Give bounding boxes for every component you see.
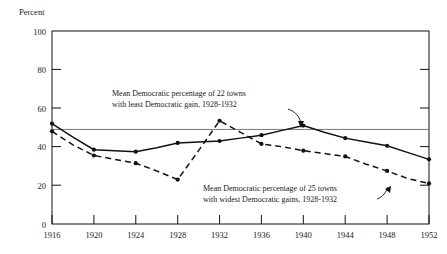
annotation-upper-line2: with least Democratic gain, 1928-1932	[112, 100, 237, 109]
data-point	[385, 144, 389, 148]
data-point	[301, 149, 305, 153]
series-markers-least-gain	[50, 122, 431, 162]
data-point	[259, 133, 263, 137]
data-point	[427, 157, 431, 161]
x-tick-label-1932: 1932	[211, 230, 228, 240]
x-tick-label-1920: 1920	[85, 230, 102, 240]
data-point	[134, 150, 138, 154]
data-point	[92, 153, 96, 157]
data-point	[385, 169, 389, 173]
x-tick-label-1940: 1940	[295, 230, 312, 240]
data-point	[50, 122, 54, 126]
data-point	[427, 181, 431, 185]
data-point	[217, 119, 221, 123]
annotation-lower: Mean Democratic percentage of 25 towns w…	[203, 184, 391, 204]
x-tick-label-1952: 1952	[421, 230, 438, 240]
x-axis: 1916 1920 1924 1928 1932 1936 1940 1944 …	[44, 215, 438, 240]
data-point	[176, 141, 180, 145]
data-point	[176, 178, 180, 182]
y-tick-label-40: 40	[38, 142, 47, 152]
chart-figure: Percent 100 80 60 40 20 0 1916 1920 1924…	[0, 0, 447, 254]
x-tick-label-1936: 1936	[253, 230, 270, 240]
y-tick-label-60: 60	[38, 104, 47, 114]
x-tick-label-1928: 1928	[169, 230, 186, 240]
y-axis-title: Percent	[19, 7, 45, 17]
annotation-lower-line2: with widest Democratic gains, 1928-1932	[203, 195, 337, 204]
annotation-upper: Mean Democratic percentage of 22 towns w…	[112, 89, 304, 128]
x-tick-label-1948: 1948	[379, 230, 396, 240]
data-point	[343, 136, 347, 140]
y-tick-label-20: 20	[38, 181, 47, 191]
annotation-lower-line1: Mean Democratic percentage of 25 towns	[203, 184, 337, 193]
y-tick-label-100: 100	[33, 27, 46, 37]
data-point	[217, 139, 221, 143]
series-markers-widest-gains	[50, 119, 431, 186]
data-point	[134, 161, 138, 165]
data-point	[343, 154, 347, 158]
y-tick-label-0: 0	[42, 220, 46, 230]
x-tick-label-1924: 1924	[127, 230, 145, 240]
annotation-upper-line1: Mean Democratic percentage of 22 towns	[112, 89, 246, 98]
x-tick-label-1916: 1916	[44, 230, 61, 240]
y-tick-label-80: 80	[38, 65, 47, 75]
data-point	[259, 142, 263, 146]
series-line-widest-gains	[52, 121, 429, 184]
data-point	[92, 148, 96, 152]
x-tick-label-1944: 1944	[337, 230, 355, 240]
data-point	[50, 129, 54, 133]
